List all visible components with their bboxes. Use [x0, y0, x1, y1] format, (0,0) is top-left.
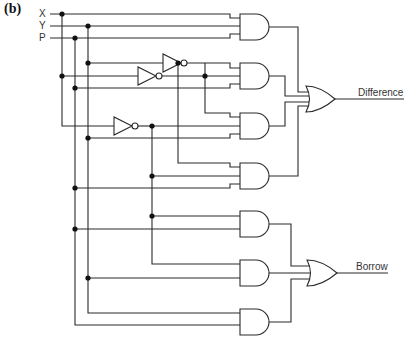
and-gate-1: [240, 14, 269, 40]
or-gate-difference: [306, 86, 335, 112]
and-gate-7: [240, 309, 269, 335]
not-gate-2: [62, 67, 205, 85]
borrow-wiring: [269, 224, 313, 322]
and-inputs: [75, 63, 240, 278]
and-gate-3: [240, 113, 269, 139]
difference-wiring: [269, 27, 312, 176]
junction-dots: [59, 11, 207, 280]
and-gate-5: [240, 211, 269, 237]
circuit-diagram: [0, 0, 410, 342]
and-gate-6: [240, 260, 269, 286]
and-gates: [240, 14, 269, 335]
input-wires: [50, 14, 240, 38]
or-gate-borrow: [307, 260, 337, 286]
not-gate-1: [88, 54, 240, 72]
and-gate-4: [240, 163, 269, 189]
and-gate-2: [240, 63, 269, 89]
not-gate-3: [112, 117, 152, 135]
